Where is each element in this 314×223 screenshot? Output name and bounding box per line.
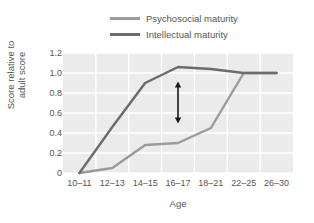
chart-legend: Psychosocial maturity Intellectual matur… bbox=[110, 12, 238, 41]
x-tick-label: 12–13 bbox=[100, 178, 125, 188]
legend-swatch-intellectual bbox=[110, 33, 140, 36]
y-axis-title-line-2: adult score bbox=[16, 15, 27, 135]
y-tick-label: 0.2 bbox=[36, 149, 62, 158]
y-axis-title-line-1: Score relative to bbox=[5, 15, 16, 135]
legend-label-intellectual: Intellectual maturity bbox=[146, 29, 228, 40]
chart-figure: Psychosocial maturity Intellectual matur… bbox=[0, 0, 314, 223]
plot-area bbox=[63, 53, 293, 173]
y-tick-label: 0.4 bbox=[36, 129, 62, 138]
y-tick-label: 0.8 bbox=[36, 89, 62, 98]
x-tick-label: 22–25 bbox=[231, 178, 256, 188]
y-tick-label: 1.0 bbox=[36, 69, 62, 78]
annotation-layer bbox=[175, 82, 181, 124]
plot-svg bbox=[63, 53, 293, 173]
y-tick-label: 0 bbox=[36, 169, 62, 178]
x-tick-label: 18–21 bbox=[198, 178, 223, 188]
x-tick-label: 10–11 bbox=[67, 178, 91, 188]
x-tick-label: 14–15 bbox=[133, 178, 158, 188]
x-tick-label: 16–17 bbox=[165, 178, 190, 188]
y-axis-ticks: 1.21.00.80.60.40.20 bbox=[36, 0, 62, 223]
y-axis-title: Score relative to adult score bbox=[5, 15, 27, 135]
legend-swatch-psychosocial bbox=[110, 17, 140, 20]
legend-item-psychosocial: Psychosocial maturity bbox=[110, 12, 238, 25]
x-axis-ticks: 10–1112–1314–1516–1718–2122–2526–30 bbox=[63, 178, 293, 192]
x-axis-title: Age bbox=[63, 198, 293, 209]
annotation-arrowhead-up bbox=[175, 82, 181, 88]
x-tick-label: 26–30 bbox=[264, 178, 289, 188]
y-tick-label: 0.6 bbox=[36, 109, 62, 118]
y-tick-label: 1.2 bbox=[36, 49, 62, 58]
annotation-arrowhead-down bbox=[175, 118, 181, 124]
legend-label-psychosocial: Psychosocial maturity bbox=[146, 13, 238, 24]
legend-item-intellectual: Intellectual maturity bbox=[110, 28, 238, 41]
